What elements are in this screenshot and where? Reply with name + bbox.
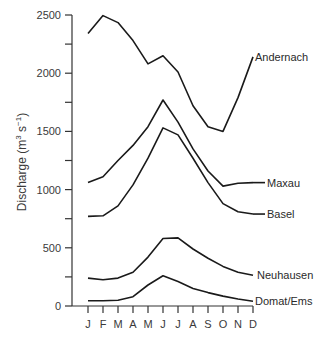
- y-axis-title-mid: s: [15, 126, 29, 135]
- x-tick-label: M: [113, 318, 122, 330]
- series-label-neuhausen: Neuhausen: [257, 269, 313, 281]
- series-label-basel: Basel: [267, 208, 295, 220]
- x-tick-label: M: [143, 318, 152, 330]
- x-tick-label: J: [85, 318, 91, 330]
- series-line-maxau: [88, 100, 253, 186]
- y-tick-label: 0: [55, 300, 61, 312]
- discharge-line-chart: 05001000150020002500 JFMAMJJASOND Andern…: [0, 0, 324, 343]
- series-line-andernach: [88, 16, 253, 132]
- x-tick-label: A: [129, 318, 137, 330]
- x-tick-label: A: [189, 318, 197, 330]
- y-axis: 05001000150020002500: [37, 9, 72, 312]
- x-axis: JFMAMJJASOND: [72, 306, 257, 330]
- y-tick-label: 500: [43, 242, 61, 254]
- series-lines: [88, 16, 253, 302]
- y-tick-label: 1000: [37, 184, 61, 196]
- series-line-basel: [88, 128, 253, 216]
- series-label-andernach: Andernach: [255, 51, 308, 63]
- series-line-domat-ems: [88, 276, 253, 302]
- x-tick-label: O: [219, 318, 228, 330]
- series-labels: AndernachMaxauBaselNeuhausenDomat/Ems: [253, 51, 313, 307]
- y-axis-title: Discharge (m3 s−1): [14, 113, 29, 211]
- series-label-domat-ems: Domat/Ems: [255, 295, 313, 307]
- series-line-neuhausen: [88, 238, 253, 280]
- y-axis-title-main: Discharge (m: [15, 140, 29, 211]
- y-tick-label: 1500: [37, 125, 61, 137]
- y-tick-label: 2000: [37, 67, 61, 79]
- x-tick-label: D: [249, 318, 257, 330]
- x-tick-label: N: [234, 318, 242, 330]
- x-tick-label: J: [175, 318, 181, 330]
- x-tick-label: J: [160, 318, 166, 330]
- y-axis-title-end: ): [15, 113, 29, 117]
- y-tick-label: 2500: [37, 9, 61, 21]
- x-tick-label: S: [204, 318, 211, 330]
- series-label-maxau: Maxau: [267, 177, 300, 189]
- x-tick-label: F: [100, 318, 107, 330]
